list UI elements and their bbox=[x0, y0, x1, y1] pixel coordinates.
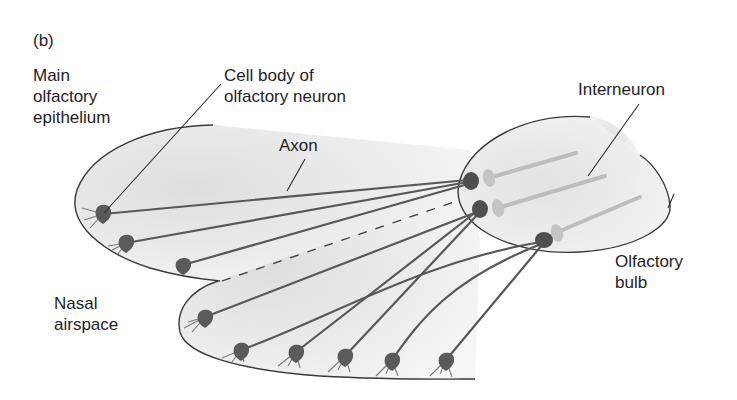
olfactory-bulb-label: Olfactory bulb bbox=[615, 251, 683, 293]
glomerulus-3 bbox=[535, 232, 553, 248]
glomerulus-2 bbox=[472, 200, 488, 218]
main-olfactory-epithelium-label: Main olfactory epithelium bbox=[33, 65, 111, 128]
interneuron-label: Interneuron bbox=[578, 79, 665, 100]
cell-body-label: Cell body of olfactory neuron bbox=[224, 65, 346, 107]
olfactory-pathway-diagram bbox=[0, 0, 737, 400]
axon-label: Axon bbox=[279, 135, 318, 156]
glomerulus-1 bbox=[463, 172, 479, 190]
nasal-airspace-label: Nasal airspace bbox=[54, 293, 118, 335]
panel-label: (b) bbox=[33, 30, 54, 51]
